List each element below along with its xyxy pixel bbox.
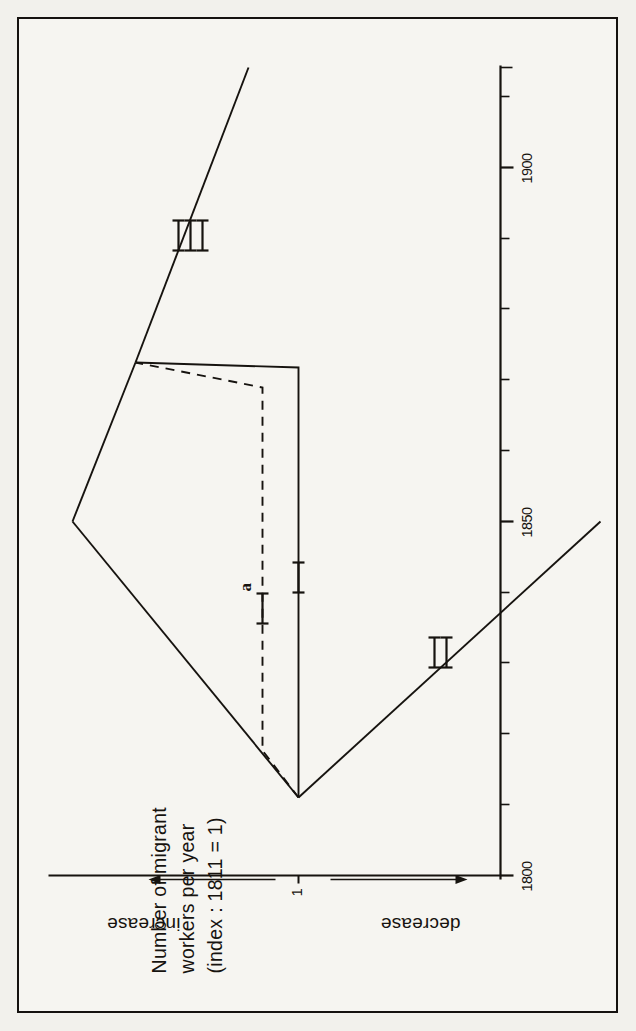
figure-frame: 1800 1850 1900 1 increase decrease Numbe… [17,17,618,1013]
marker-series-ii [428,637,452,667]
series-upper-envelope-line [72,521,298,797]
x-tick-label-1800: 1800 [519,861,534,891]
chart-plot-area: 1800 1850 1900 1 increase decrease Numbe… [30,35,605,995]
x-tick-label-1900: 1900 [519,153,534,183]
axis-title-line-3: (index : 1811 = 1) [204,817,224,973]
marker-series-iii [172,220,208,250]
series-ii-line [298,521,600,797]
series-lower-envelope-line [72,362,135,521]
series-i-line [135,362,298,797]
axis-title-line-1: Number of migrant [148,806,168,973]
series-ia-dashed-line [135,362,298,797]
x-axis-major-ticks [500,167,513,875]
curve-label-ia-sup-text: a [235,582,254,591]
y-axis-decrease-label: decrease [380,913,460,933]
x-axis-minor-ticks [500,67,512,804]
axis-title-line-2: workers per year [176,823,196,973]
chart-stage: 1800 1850 1900 1 increase decrease Numbe… [30,35,605,995]
marker-series-ia [256,593,268,623]
series-iii-line [135,67,248,362]
y-tick-label-one: 1 [288,888,304,896]
figure-page: 1800 1850 1900 1 increase decrease Numbe… [0,0,636,1031]
x-tick-label-1850: 1850 [519,507,534,537]
marker-series-i [292,562,304,592]
curve-label-ia-sup: a [236,582,254,591]
